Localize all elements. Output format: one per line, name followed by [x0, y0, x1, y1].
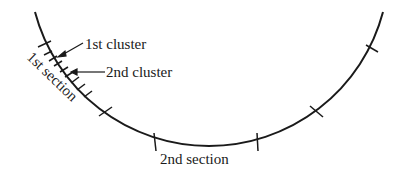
arc-diagram: 1st cluster 2nd cluster 1st section 2nd …	[0, 0, 407, 179]
arc-curve	[35, 12, 383, 146]
label-second-cluster: 2nd cluster	[106, 64, 172, 80]
tick-marks	[38, 41, 378, 151]
label-first-cluster: 1st cluster	[85, 36, 146, 52]
label-second-section: 2nd section	[160, 151, 229, 167]
label-first-section: 1st section	[24, 49, 81, 105]
